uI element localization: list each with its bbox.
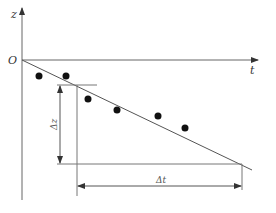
delta-z-label: Δz (49, 119, 59, 131)
diagram-canvas: z t O Δz Δt (0, 0, 276, 213)
regression-line (22, 60, 252, 170)
t-axis-label: t (250, 64, 255, 77)
delta-t-label: Δt (155, 175, 166, 185)
z-axis-label: z (10, 8, 17, 21)
data-point (63, 73, 70, 80)
data-point (114, 107, 121, 114)
data-point (155, 113, 162, 120)
data-point (182, 125, 189, 132)
data-point (85, 96, 92, 103)
data-point (36, 73, 43, 80)
origin-label: O (8, 54, 17, 67)
